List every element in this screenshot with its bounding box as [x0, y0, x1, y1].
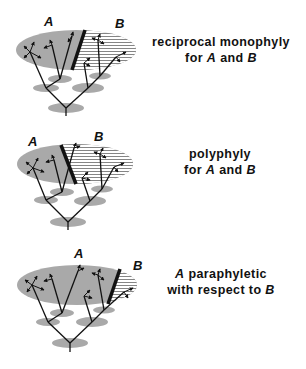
caption-text: and [220, 51, 243, 65]
caption-text: paraphyletic [188, 267, 266, 281]
panel-reciprocal-monophyly: A B [16, 14, 140, 116]
caption-species-a: A [207, 51, 216, 65]
caption-species-b: B [247, 51, 256, 65]
caption-line-1: A paraphyletic [146, 266, 296, 282]
caption-line-2: for A and B [146, 50, 296, 66]
caption-text: with respect to [167, 283, 261, 297]
label-a: A [73, 246, 83, 261]
caption-paraphyly: A paraphyletic with respect to B [146, 266, 296, 298]
caption-species-b: B [265, 283, 274, 297]
panel-polyphyly: A B [17, 129, 140, 230]
label-b: B [94, 129, 103, 144]
label-a: A [27, 134, 37, 149]
caption-line-2: for A and B [145, 162, 295, 178]
panel-paraphyly: A B [17, 246, 142, 352]
caption-species-b: B [246, 163, 255, 177]
caption-text: and [219, 163, 242, 177]
caption-species-a: A [175, 267, 184, 281]
caption-polyphyly: polyphyly for A and B [145, 146, 295, 178]
caption-line-1: polyphyly [145, 146, 295, 162]
caption-reciprocal-monophyly: reciprocal monophyly for A and B [146, 34, 296, 66]
label-b: B [133, 258, 142, 273]
caption-line-1: reciprocal monophyly [146, 34, 296, 50]
caption-line-2: with respect to B [146, 282, 296, 298]
caption-species-a: A [206, 163, 215, 177]
label-b: B [115, 16, 124, 31]
label-a: A [43, 14, 53, 29]
caption-text: for [185, 51, 203, 65]
species-ellipse [16, 28, 140, 72]
caption-text: for [184, 163, 202, 177]
